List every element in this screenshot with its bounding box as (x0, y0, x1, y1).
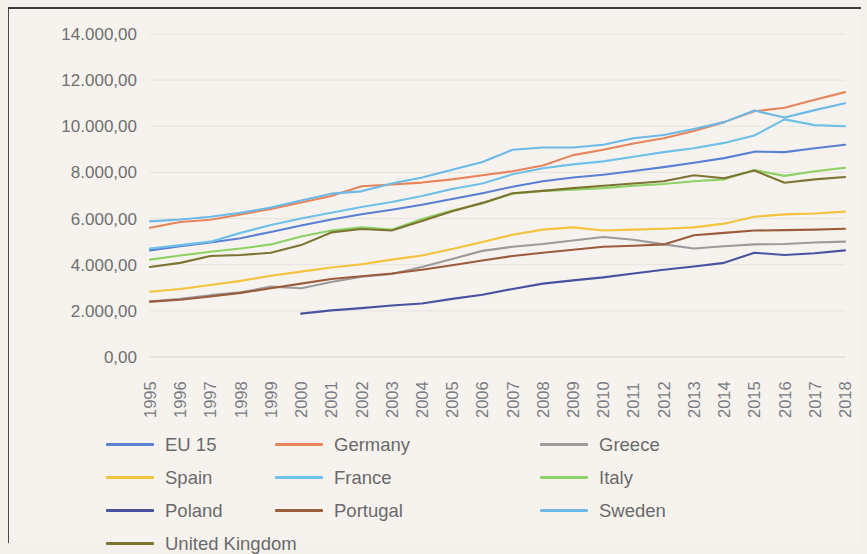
x-axis-tick-label: 2008 (534, 381, 552, 418)
legend-swatch-icon (275, 476, 323, 479)
legend-label: Greece (599, 434, 660, 456)
legend-swatch-icon (106, 542, 154, 545)
plot-area: 14.000,0012.000,0010.000,008.000,006.000… (0, 0, 867, 430)
line-chart: 14.000,0012.000,0010.000,008.000,006.000… (0, 0, 867, 430)
legend-label: United Kingdom (165, 533, 297, 554)
gridlines (150, 34, 845, 357)
y-axis-tick-label: 8.000,00 (71, 163, 137, 182)
x-axis-tick-label: 1995 (141, 381, 159, 418)
x-axis-tick-label: 2005 (443, 381, 461, 418)
legend-row: SpainFranceItaly (0, 461, 867, 494)
x-axis-tick-label: 1997 (201, 381, 219, 418)
x-axis-tick-label: 2009 (564, 381, 582, 418)
x-axis-tick-label: 2013 (685, 381, 703, 418)
y-axis-tick-label: 14.000,00 (61, 25, 137, 44)
x-axis-tick-label: 1996 (171, 381, 189, 418)
x-axis-tick-label: 2014 (715, 381, 733, 418)
y-axis-tick-label: 10.000,00 (61, 117, 137, 136)
legend-label: EU 15 (165, 434, 216, 456)
legend-swatch-icon (275, 443, 323, 446)
x-axis-tick-label: 2017 (806, 381, 824, 418)
x-axis-tick-label: 2002 (353, 381, 371, 418)
x-axis-tick-label: 2007 (504, 381, 522, 418)
series-line-spain (150, 212, 845, 292)
x-axis-tick-label: 2012 (655, 381, 673, 418)
legend-item-united-kingdom[interactable]: United Kingdom (0, 533, 275, 554)
chart-page: 14.000,0012.000,0010.000,008.000,006.000… (0, 0, 867, 554)
legend-swatch-icon (106, 443, 154, 446)
x-axis-tick-label: 1998 (232, 381, 250, 418)
legend-label: Poland (165, 500, 223, 522)
legend-item-portugal[interactable]: Portugal (275, 500, 540, 522)
y-axis-tick-label: 12.000,00 (61, 71, 137, 90)
legend-swatch-icon (106, 509, 154, 512)
legend-item-germany[interactable]: Germany (275, 434, 540, 456)
series-line-france (150, 119, 845, 248)
y-axis-tick-labels: 14.000,0012.000,0010.000,008.000,006.000… (61, 25, 137, 367)
series-line-poland (301, 250, 845, 313)
y-axis-tick-label: 4.000,00 (71, 256, 137, 275)
legend-item-sweden[interactable]: Sweden (540, 500, 800, 522)
legend-label: Portugal (334, 500, 403, 522)
legend-swatch-icon (540, 443, 588, 446)
legend-item-spain[interactable]: Spain (0, 467, 275, 489)
x-axis-tick-label: 2004 (413, 381, 431, 418)
legend-label: Italy (599, 467, 633, 489)
legend-swatch-icon (540, 509, 588, 512)
x-axis-tick-label: 2016 (776, 381, 794, 418)
x-axis-tick-label: 2000 (292, 381, 310, 418)
legend-row: PolandPortugalSweden (0, 494, 867, 527)
legend-label: Sweden (599, 500, 666, 522)
x-axis-tick-label: 2010 (594, 381, 612, 418)
legend-item-greece[interactable]: Greece (540, 434, 800, 456)
legend-swatch-icon (540, 476, 588, 479)
x-axis-tick-label: 2006 (473, 381, 491, 418)
legend-item-eu-15[interactable]: EU 15 (0, 434, 275, 456)
legend-item-france[interactable]: France (275, 467, 540, 489)
y-axis-tick-label: 6.000,00 (71, 210, 137, 229)
x-axis-tick-label: 2015 (745, 381, 763, 418)
x-axis-tick-label: 2011 (624, 383, 642, 418)
chart-legend: EU 15GermanyGreeceSpainFranceItalyPoland… (0, 428, 867, 552)
x-axis-tick-label: 2003 (383, 381, 401, 418)
legend-label: France (334, 467, 392, 489)
y-axis-tick-label: 2.000,00 (71, 302, 137, 321)
legend-item-poland[interactable]: Poland (0, 500, 275, 522)
x-axis-tick-label: 1999 (262, 381, 280, 418)
legend-row: EU 15GermanyGreece (0, 428, 867, 461)
legend-label: Germany (334, 434, 410, 456)
series-line-germany (150, 92, 845, 228)
legend-label: Spain (165, 467, 212, 489)
series-line-sweden (150, 103, 845, 221)
x-axis-tick-label: 2018 (836, 381, 854, 418)
series-lines (150, 92, 845, 313)
legend-row: United Kingdom (0, 527, 867, 554)
legend-swatch-icon (275, 509, 323, 512)
x-axis-tick-labels: 1995199619971998199920002001200220032004… (141, 381, 854, 418)
x-axis-tick-label: 2001 (322, 381, 340, 418)
legend-item-italy[interactable]: Italy (540, 467, 800, 489)
legend-swatch-icon (106, 476, 154, 479)
y-axis-tick-label: 0,00 (104, 348, 137, 367)
